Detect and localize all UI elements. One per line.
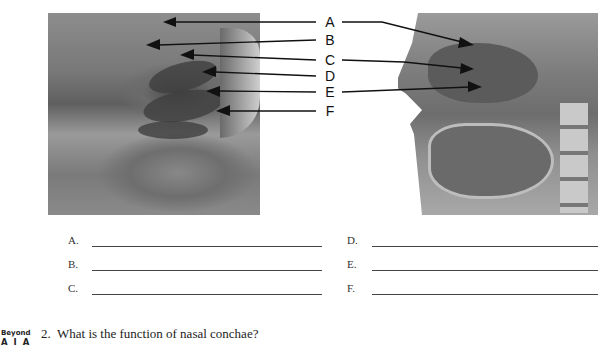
label-c: C <box>323 53 337 67</box>
question-text: What is the function of nasal conchae? <box>57 326 258 341</box>
badge-line2: A I A <box>1 338 31 346</box>
answer-line-b[interactable] <box>92 270 322 271</box>
answer-line-d[interactable] <box>372 246 598 247</box>
question-2: 2. What is the function of nasal conchae… <box>41 326 258 342</box>
label-a: A <box>323 15 337 29</box>
label-leader-lines <box>0 0 613 230</box>
answer-label-c: C. <box>68 282 78 294</box>
answer-label-f: F. <box>347 282 355 294</box>
label-f: F <box>323 104 337 118</box>
answer-line-c[interactable] <box>92 294 322 295</box>
answer-line-e[interactable] <box>372 270 598 271</box>
question-number: 2. <box>41 326 51 341</box>
answer-line-a[interactable] <box>92 246 322 247</box>
answer-label-a: A. <box>68 234 79 246</box>
label-b: B <box>323 33 337 47</box>
answer-label-b: B. <box>68 258 78 270</box>
label-d: D <box>323 69 337 83</box>
answer-label-e: E. <box>347 258 356 270</box>
answer-label-d: D. <box>347 234 358 246</box>
beyond-aia-badge: Beyond A I A <box>1 329 31 346</box>
label-e: E <box>323 85 337 99</box>
answer-line-f[interactable] <box>372 294 598 295</box>
